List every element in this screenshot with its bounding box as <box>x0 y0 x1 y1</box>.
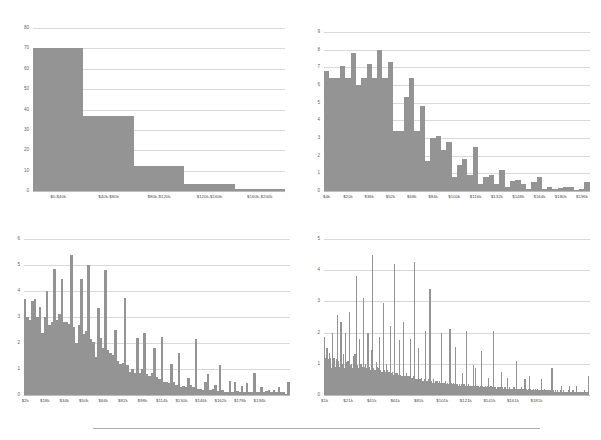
plot-area-bottom-right: 012345$1k$21k$41k$61k$81k$101k$121k$141k… <box>324 239 590 395</box>
bar <box>33 48 83 191</box>
x-axis-tick-label: $40k-$80k <box>98 195 119 199</box>
bar-series <box>324 32 590 191</box>
x-axis-tick-label: $80k-$120k <box>148 195 171 199</box>
bar <box>235 189 285 191</box>
bar <box>584 182 589 191</box>
x-axis-tick-label: $21k <box>343 399 353 403</box>
bar <box>588 376 589 395</box>
y-axis-tick-label: 60 <box>24 66 33 71</box>
y-axis-tick-label: 10 <box>24 168 33 173</box>
x-axis-tick-label: $50k <box>79 399 89 403</box>
gridline <box>324 191 590 192</box>
bar <box>184 184 234 191</box>
x-axis-tick-label: $181k <box>530 399 542 403</box>
x-axis-tick-label: $180k <box>555 195 567 199</box>
bar-series <box>33 28 285 191</box>
y-axis-tick-label: 50 <box>24 87 33 92</box>
x-axis-tick-label: $84k <box>428 195 438 199</box>
x-axis-tick-label: $161k <box>507 399 519 403</box>
x-axis-tick-label: $36k <box>364 195 374 199</box>
gridline <box>324 395 590 396</box>
x-axis-tick-label: $121k <box>460 399 472 403</box>
x-axis-tick-label: $52k <box>386 195 396 199</box>
bar-series <box>24 239 290 395</box>
y-axis-tick-label: 30 <box>24 128 33 133</box>
x-axis-tick-label: $101k <box>436 399 448 403</box>
x-axis-tick-label: $196k <box>576 195 588 199</box>
x-axis-tick-label: $100k <box>448 195 460 199</box>
plot-area-top-left: 01020304050607080$0-$40k$40k-$80k$80k-$1… <box>33 28 285 191</box>
plot-area-top-right: 0123456789$4k$20k$36k$52k$68k$84k$100k$1… <box>324 32 590 191</box>
panel-top-right: 0123456789$4k$20k$36k$52k$68k$84k$100k$1… <box>300 0 601 220</box>
bar <box>134 166 184 191</box>
x-axis-tick-label: $160k-$200k <box>247 195 272 199</box>
x-axis-tick-label: $116k <box>470 195 482 199</box>
x-axis-tick-label: $162k <box>214 399 226 403</box>
x-axis-tick-label: $120k-$160k <box>197 195 222 199</box>
x-axis-tick-label: $2k <box>22 399 29 403</box>
x-axis-tick-label: $0-$40k <box>50 195 66 199</box>
gridline <box>24 395 290 396</box>
x-axis-tick-label: $81k <box>414 399 424 403</box>
x-axis-tick-label: $61k <box>390 399 400 403</box>
bottom-divider <box>93 428 540 429</box>
bar <box>287 382 289 395</box>
bar <box>83 116 133 191</box>
x-axis-tick-label: $148k <box>512 195 524 199</box>
x-axis-tick-label: $68k <box>407 195 417 199</box>
x-axis-tick-label: $34k <box>60 399 70 403</box>
gridline <box>33 191 285 192</box>
panel-top-left: 01020304050607080$0-$40k$40k-$80k$80k-$1… <box>0 0 300 220</box>
y-axis-tick-label: 40 <box>24 107 33 112</box>
x-axis-tick-label: $20k <box>343 195 353 199</box>
x-axis-tick-label: $66k <box>99 399 109 403</box>
x-axis-tick-label: $130k <box>175 399 187 403</box>
bar <box>195 339 197 395</box>
x-axis-tick-label: $164k <box>533 195 545 199</box>
x-axis-tick-label: $4k <box>323 195 330 199</box>
y-axis-tick-label: 20 <box>24 148 33 153</box>
bar <box>493 331 494 395</box>
x-axis-tick-label: $178k <box>234 399 246 403</box>
x-axis-tick-label: $141k <box>483 399 495 403</box>
x-axis-tick-label: $114k <box>156 399 168 403</box>
panel-bottom-left: 0123456$2k$18k$34k$50k$66k$82k$98k$114k$… <box>0 220 300 440</box>
bar <box>429 289 430 395</box>
x-axis-tick-label: $146k <box>195 399 207 403</box>
x-axis-tick-label: $41k <box>367 399 377 403</box>
y-axis-tick-label: 70 <box>24 46 33 51</box>
x-axis-tick-label: $18k <box>40 399 50 403</box>
panel-bottom-right: 012345$1k$21k$41k$61k$81k$101k$121k$141k… <box>300 220 601 440</box>
bar-series <box>324 239 590 395</box>
bar <box>414 262 415 395</box>
x-axis-tick-label: $194k <box>254 399 266 403</box>
x-axis-tick-label: $82k <box>118 399 128 403</box>
y-axis-tick-label: 80 <box>24 26 33 31</box>
plot-area-bottom-left: 0123456$2k$18k$34k$50k$66k$82k$98k$114k$… <box>24 239 290 395</box>
x-axis-tick-label: $132k <box>491 195 503 199</box>
histogram-grid-figure: 01020304050607080$0-$40k$40k-$80k$80k-$1… <box>0 0 601 440</box>
x-axis-tick-label: $1k <box>321 399 328 403</box>
x-axis-tick-label: $98k <box>138 399 148 403</box>
